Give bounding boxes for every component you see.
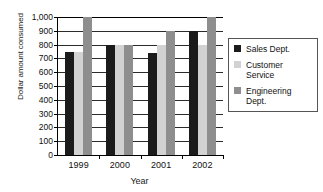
y-axis-tick-label: 500 (39, 82, 53, 91)
bar-group (182, 17, 223, 155)
y-axis-tick-label: 300 (39, 109, 53, 118)
y-axis-tick-label: 400 (39, 96, 53, 105)
legend-item-label: Sales Dept. (246, 44, 290, 54)
x-axis-tick (223, 155, 224, 159)
legend-item-label: Engineering Dept. (246, 86, 313, 106)
legend-item: Sales Dept. (234, 44, 313, 54)
y-axis-tick-label: 900 (39, 27, 53, 36)
bar (115, 45, 124, 155)
bar (124, 45, 133, 155)
bar (74, 52, 83, 156)
legend-swatch-icon (234, 45, 241, 52)
legend-swatch-icon (234, 87, 241, 94)
plot-area: 01002003004005006007008009001,000 199920… (57, 17, 223, 156)
legend-item: Customer Service (234, 60, 313, 80)
x-axis-category-label: 2000 (110, 160, 130, 170)
bar (207, 17, 216, 155)
legend-item: Engineering Dept. (234, 86, 313, 106)
bar-group (58, 17, 99, 155)
x-axis-category-label: 1999 (69, 160, 89, 170)
bar (65, 52, 74, 156)
y-axis-tick (54, 155, 58, 156)
x-axis-title: Year (57, 176, 222, 186)
bar (157, 45, 166, 155)
bar (198, 45, 207, 155)
x-axis-category-label: 2001 (151, 160, 171, 170)
y-axis-tick-label: 0 (48, 151, 53, 160)
x-axis-tick (141, 155, 142, 159)
y-axis-tick-label: 800 (39, 40, 53, 49)
bar-chart-figure: Dollar amount consumed 01002003004005006… (0, 0, 323, 192)
bar (106, 45, 115, 155)
bar-group (99, 17, 140, 155)
bar-group (141, 17, 182, 155)
legend-item-label: Customer Service (246, 60, 313, 80)
x-axis-category-label: 2002 (192, 160, 212, 170)
y-axis-title: Dollar amount consumed (16, 0, 25, 132)
legend-swatch-icon (234, 61, 241, 68)
bar (166, 31, 175, 155)
bar (189, 31, 198, 155)
x-axis-tick (99, 155, 100, 159)
y-axis-tick-label: 600 (39, 68, 53, 77)
y-axis-tick-label: 700 (39, 54, 53, 63)
y-axis-tick-label: 1,000 (32, 13, 53, 22)
bar (148, 53, 157, 155)
x-axis-tick (182, 155, 183, 159)
bar (83, 17, 92, 155)
chart-legend: Sales Dept.Customer ServiceEngineering D… (228, 38, 318, 112)
y-axis-tick-label: 200 (39, 123, 53, 132)
y-axis-tick-label: 100 (39, 137, 53, 146)
